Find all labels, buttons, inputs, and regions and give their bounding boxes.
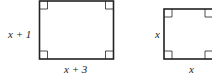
label-text: x + 3 — [64, 63, 87, 75]
rect2-width-label: x — [189, 64, 194, 75]
right-angle-mark — [106, 51, 114, 59]
rectangle-2 — [164, 9, 212, 59]
label-text: x — [155, 28, 160, 40]
label-text: x + 1 — [8, 28, 31, 40]
right-angle-mark — [205, 51, 212, 59]
right-angle-mark — [40, 51, 48, 59]
rect1-height-label: x + 1 — [8, 29, 31, 40]
right-angle-mark — [164, 9, 172, 17]
rect1-width-label: x + 3 — [64, 64, 87, 75]
label-text: x — [189, 63, 194, 75]
right-angle-mark — [164, 51, 172, 59]
right-angle-mark — [40, 1, 48, 9]
right-angle-mark — [106, 1, 114, 9]
figure-canvas — [0, 0, 212, 81]
right-angle-mark — [205, 9, 212, 17]
rect2-height-label: x — [155, 29, 160, 40]
rectangle-1 — [40, 1, 114, 59]
